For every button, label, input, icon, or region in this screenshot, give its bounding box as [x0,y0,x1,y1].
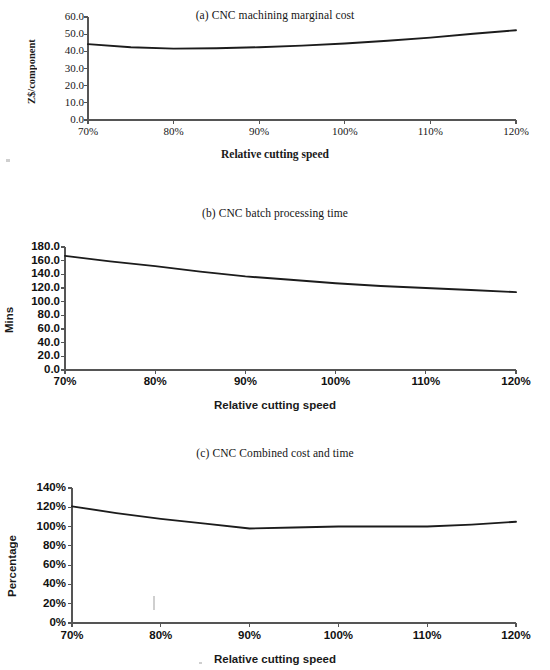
chart-a-x-axis-label: Relative cutting speed [0,148,550,160]
chart-b-y-tick: 60.0 [16,323,60,335]
chart-b-x-tick: 90% [215,376,275,388]
chart-c-x-tick: 70% [42,630,102,642]
chart-panel-a: (a) CNC machining marginal cost Z$/compo… [0,0,550,200]
chart-a-y-tick: 60.0 [38,11,84,22]
chart-c-x-axis-label: Relative cutting speed [0,653,550,665]
chart-b-x-axis-label: Relative cutting speed [0,399,550,411]
chart-b-y-tick: 100.0 [16,296,60,308]
chart-panel-c: (c) CNC Combined cost and time Percentag… [0,440,550,670]
chart-a-x-tick: 100% [315,126,375,137]
chart-b-y-tick: 120.0 [16,282,60,294]
chart-a-x-tick: 70% [58,126,118,137]
chart-c-x-tick: 80% [131,630,191,642]
chart-b-y-tick: 140.0 [16,268,60,280]
chart-a-x-tick: 80% [144,126,204,137]
scan-speck [199,662,202,664]
chart-b-y-tick: 20.0 [16,350,60,362]
chart-a-y-tick: 50.0 [38,28,84,39]
chart-a-x-tick: 90% [229,126,289,137]
chart-a-x-tick: 110% [400,126,460,137]
chart-b-y-tick: 180.0 [16,241,60,253]
chart-c-y-tick: 140% [20,482,66,494]
chart-a-y-tick: 10.0 [38,97,84,108]
chart-b-y-tick: 160.0 [16,255,60,267]
chart-c-y-tick: 100% [20,521,66,533]
chart-a-y-tick: 30.0 [38,63,84,74]
chart-c-y-tick: 0% [20,617,66,629]
chart-c-y-tick: 80% [20,540,66,552]
chart-b-x-tick: 110% [396,376,456,388]
chart-c-y-tick: 20% [20,598,66,610]
scan-speck [6,159,10,162]
chart-b-x-tick: 70% [35,376,95,388]
chart-b-x-tick: 100% [306,376,366,388]
chart-b-y-tick: 0.0 [16,364,60,376]
chart-c-x-tick: 120% [486,630,546,642]
chart-b-x-tick: 80% [125,376,185,388]
chart-a-y-tick: 0.0 [38,114,84,125]
chart-a-x-tick: 120% [486,126,546,137]
chart-b-y-tick: 40.0 [16,337,60,349]
chart-c-y-tick: 120% [20,501,66,513]
chart-c-y-tick: 40% [20,578,66,590]
chart-a-y-tick: 20.0 [38,80,84,91]
chart-b-y-tick: 80.0 [16,309,60,321]
chart-c-x-tick: 100% [308,630,368,642]
chart-a-y-tick: 40.0 [38,45,84,56]
chart-c-x-tick: 90% [220,630,280,642]
chart-c-x-tick: 110% [397,630,457,642]
scan-speck [153,596,155,610]
chart-c-y-tick: 60% [20,559,66,571]
chart-panel-b: (b) CNC batch processing time Mins 0.020… [0,200,550,440]
chart-b-x-tick: 120% [486,376,546,388]
